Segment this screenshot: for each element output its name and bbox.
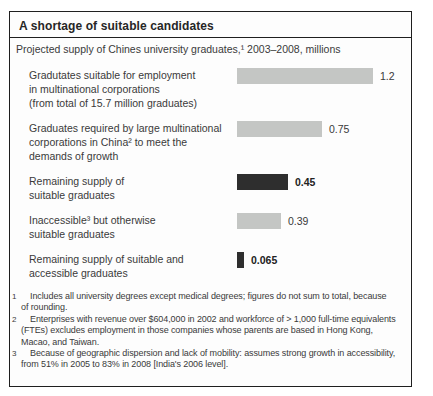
bar-row-label: Remaining supply of suitable graduates	[29, 174, 237, 202]
bar-chart: Gradutates suitable for employment in mu…	[10, 55, 411, 280]
bar-value: 1.2	[380, 70, 395, 82]
chart-subtitle: Projected supply of Chines university gr…	[10, 38, 411, 55]
footnote: 3 Because of geographic dispersion and l…	[10, 348, 411, 371]
bar-value: 0.39	[288, 215, 308, 227]
bar-area: 0.065	[237, 252, 277, 268]
bar	[237, 174, 288, 190]
bar-row: Graduates required by large multinationa…	[29, 121, 411, 163]
footnote: 1 Includes all university degrees except…	[10, 291, 411, 314]
bar	[237, 252, 244, 268]
bar-value: 0.45	[295, 176, 315, 188]
source-line: Source: McKinsey Global Institute labor …	[30, 378, 411, 387]
bar-row-label: Inaccessible³ but otherwise suitable gra…	[29, 213, 237, 241]
footnote: 2 Enterprises with revenue over $604,000…	[10, 314, 411, 348]
bar-area: 0.45	[237, 174, 315, 190]
bar-row: Gradutates suitable for employment in mu…	[29, 68, 411, 110]
bar	[237, 68, 373, 84]
bar-row-label: Graduates required by large multinationa…	[29, 121, 237, 163]
footnote-text: Because of geographic dispersion and lac…	[21, 348, 395, 369]
bar	[237, 213, 281, 229]
chart-title: A shortage of suitable candidates	[19, 19, 214, 33]
chart-panel: A shortage of suitable candidates Projec…	[9, 11, 412, 387]
bar-value: 0.065	[251, 254, 277, 266]
bar-row-label: Remaining supply of suitable and accessi…	[29, 252, 237, 280]
footnote-text: Enterprises with revenue over $604,000 i…	[21, 314, 396, 347]
bar-area: 0.75	[237, 121, 349, 137]
bar	[237, 121, 322, 137]
footnote-text: Includes all university degrees except m…	[21, 291, 387, 312]
footnote-marker: 3	[12, 348, 16, 359]
page: A shortage of suitable candidates Projec…	[0, 0, 433, 396]
bar-area: 0.39	[237, 213, 308, 229]
bar-row-label: Gradutates suitable for employment in mu…	[29, 68, 237, 110]
footnote-marker: 1	[12, 291, 16, 302]
bar-row: Remaining supply of suitable graduates 0…	[29, 174, 411, 202]
chart-title-bar: A shortage of suitable candidates	[10, 12, 411, 38]
footnote-marker: 2	[12, 314, 16, 325]
bar-value: 0.75	[329, 123, 349, 135]
bar-row: Remaining supply of suitable and accessi…	[29, 252, 411, 280]
footnotes: 1 Includes all university degrees except…	[10, 291, 411, 371]
bar-row: Inaccessible³ but otherwise suitable gra…	[29, 213, 411, 241]
bar-area: 1.2	[237, 68, 395, 84]
